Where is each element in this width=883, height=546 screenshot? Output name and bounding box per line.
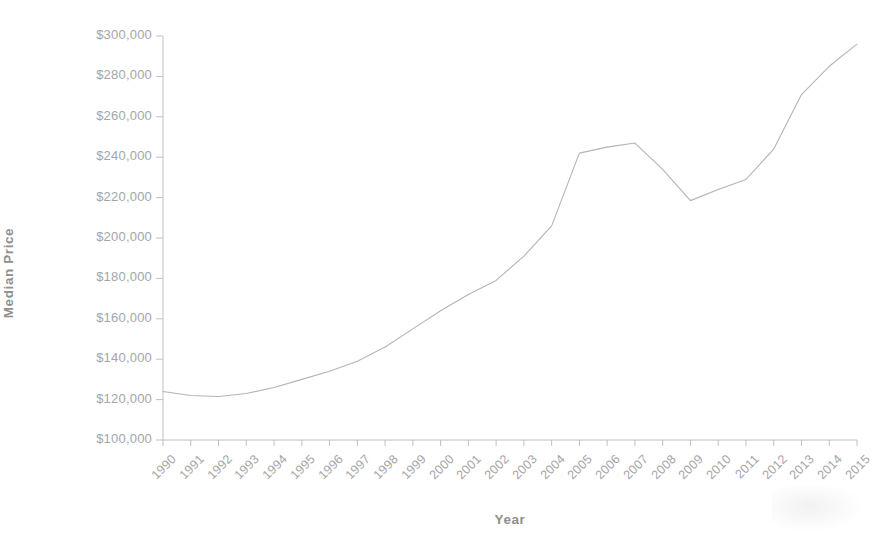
x-axis-tick-labels: 1990199119921993199419951996199719981999…: [0, 0, 883, 546]
line-chart: Median Price $100,000$120,000$140,000$16…: [0, 0, 883, 546]
x-axis-title: Year: [163, 512, 857, 527]
